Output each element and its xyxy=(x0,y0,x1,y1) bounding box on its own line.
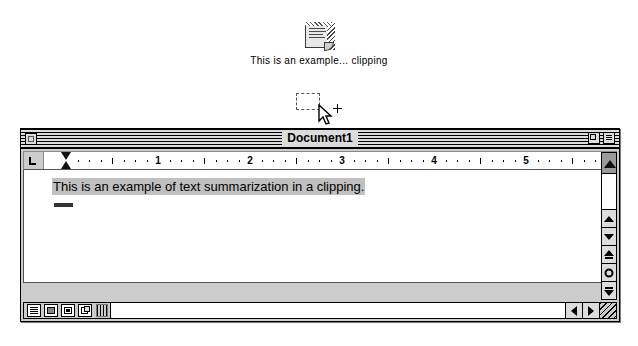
horizontal-scroll-track[interactable] xyxy=(110,303,565,318)
clipping-file-label: This is an example... clipping xyxy=(228,55,410,66)
ruler-pip-tick xyxy=(354,160,355,162)
ruler-pip-tick xyxy=(365,160,366,162)
ruler-pip-tick xyxy=(377,160,378,162)
document-window[interactable]: Document1 12345 This is an example of te… xyxy=(20,128,620,322)
window-title-bar[interactable]: Document1 xyxy=(21,129,619,149)
ruler-pip-tick xyxy=(561,160,562,162)
ruler-half-tick xyxy=(204,158,205,164)
ruler-pip-tick xyxy=(538,160,539,162)
ruler-pip-tick xyxy=(124,160,125,162)
target-circle-icon xyxy=(605,268,614,277)
drag-outline xyxy=(296,93,320,110)
lines-icon xyxy=(30,307,38,314)
view-multipage-button[interactable] xyxy=(78,304,92,317)
ruler-pip-tick xyxy=(78,160,79,162)
ruler-pip-tick xyxy=(584,160,585,162)
view-draft-button[interactable] xyxy=(27,304,41,317)
scroll-right-button[interactable] xyxy=(582,303,599,318)
ruler-pip-tick xyxy=(400,160,401,162)
triangle-left-icon xyxy=(571,306,577,316)
ruler-pip-tick xyxy=(595,160,596,162)
ruler-pip-tick xyxy=(135,160,136,162)
ruler-pip-tick xyxy=(273,160,274,162)
page-stack-icon xyxy=(81,307,88,314)
drag-insertion-marker xyxy=(54,203,73,207)
window-bottom-bar[interactable] xyxy=(23,302,617,319)
collapse-box[interactable] xyxy=(603,132,615,144)
document-text-area[interactable]: This is an example of text summarization… xyxy=(23,170,617,283)
page-up-button[interactable] xyxy=(602,245,616,263)
ruler-pip-tick xyxy=(331,160,332,162)
horizontal-split-grip[interactable] xyxy=(96,304,108,317)
ruler-number-5: 5 xyxy=(523,155,529,166)
clipping-icon-text-lines xyxy=(309,28,327,41)
scroll-left-button[interactable] xyxy=(565,303,582,318)
page-filled-icon xyxy=(47,307,55,314)
ruler-scale[interactable]: 12345 xyxy=(44,152,616,169)
document-text-selection[interactable]: This is an example of text summarization… xyxy=(52,178,365,195)
ruler-pip-tick xyxy=(308,160,309,162)
ruler-pip-tick xyxy=(101,160,102,162)
scroll-down-button[interactable] xyxy=(602,227,616,245)
view-page-button[interactable] xyxy=(44,304,58,317)
vertical-scrollbar[interactable] xyxy=(601,152,617,300)
page-down-button[interactable] xyxy=(602,281,616,299)
ruler-pip-tick xyxy=(89,160,90,162)
vertical-scroll-track[interactable] xyxy=(602,174,616,209)
triangle-right-icon xyxy=(588,306,594,316)
ruler-number-1: 1 xyxy=(155,155,161,166)
right-indent-marker[interactable] xyxy=(604,160,616,168)
ruler-pip-tick xyxy=(446,160,447,162)
ruler-number-3: 3 xyxy=(339,155,345,166)
ruler-pip-tick xyxy=(193,160,194,162)
ruler-half-tick xyxy=(480,158,481,164)
ruler-pip-tick xyxy=(170,160,171,162)
ruler-pip-tick xyxy=(181,160,182,162)
ruler-pip-tick xyxy=(492,160,493,162)
ruler-pip-tick xyxy=(239,160,240,162)
ruler-pip-tick xyxy=(503,160,504,162)
ruler-pip-tick xyxy=(319,160,320,162)
ruler-pip-tick xyxy=(469,160,470,162)
ruler-pip-tick xyxy=(227,160,228,162)
ruler-half-tick xyxy=(572,158,573,164)
ruler-pip-tick xyxy=(411,160,412,162)
left-indent-marker[interactable] xyxy=(61,152,72,169)
desktop-clipping-item[interactable]: This is an example... clipping xyxy=(228,22,410,66)
ruler-half-tick xyxy=(112,158,113,164)
ruler-number-2: 2 xyxy=(247,155,253,166)
ruler-half-tick xyxy=(296,158,297,164)
ruler-pip-tick xyxy=(147,160,148,162)
ruler-number-4: 4 xyxy=(431,155,437,166)
triangle-up-icon xyxy=(604,216,614,222)
left-tab-icon xyxy=(29,157,36,165)
ruler-pip-tick xyxy=(423,160,424,162)
triangle-down-icon xyxy=(604,234,614,240)
title-bar-right-controls xyxy=(588,132,615,144)
copy-plus-badge xyxy=(333,104,342,113)
ruler-pip-tick xyxy=(515,160,516,162)
ruler-pip-tick xyxy=(285,160,286,162)
ruler-pip-tick xyxy=(216,160,217,162)
zoom-box[interactable] xyxy=(588,132,600,144)
resize-grow-box[interactable] xyxy=(599,303,616,318)
clipping-icon-torn-top xyxy=(305,22,331,26)
triangle-up-bar-icon xyxy=(604,250,614,260)
tab-type-well[interactable] xyxy=(24,152,44,169)
ruler-pip-tick xyxy=(457,160,458,162)
ruler-pip-tick xyxy=(549,160,550,162)
window-title: Document1 xyxy=(21,129,619,148)
ruler-half-tick xyxy=(388,158,389,164)
go-to-button[interactable] xyxy=(602,263,616,281)
clipping-file-icon[interactable] xyxy=(302,22,336,52)
ruler[interactable]: 12345 xyxy=(23,151,617,170)
triangle-down-bar-icon xyxy=(604,286,614,296)
ruler-pip-tick xyxy=(262,160,263,162)
scroll-up-button[interactable] xyxy=(602,209,616,227)
view-layout-button[interactable] xyxy=(61,304,75,317)
page-outline-icon xyxy=(64,307,72,314)
